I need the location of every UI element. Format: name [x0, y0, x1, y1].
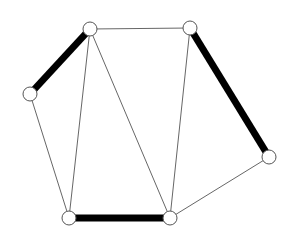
edge-b-f: [170, 28, 190, 218]
edges-layer: [30, 28, 269, 218]
node-a: [83, 22, 97, 36]
edge-a-c-thick: [30, 29, 90, 94]
node-d: [262, 150, 276, 164]
node-f: [163, 211, 177, 225]
edge-a-b: [90, 28, 190, 29]
nodes-layer: [23, 21, 276, 225]
edge-b-d-thick: [190, 28, 269, 157]
graph-diagram: [0, 0, 284, 237]
node-c: [23, 87, 37, 101]
node-b: [183, 21, 197, 35]
edge-a-e: [69, 29, 90, 218]
node-e: [62, 211, 76, 225]
edge-d-f: [170, 157, 269, 218]
edge-c-e: [30, 94, 69, 218]
edge-a-f: [90, 29, 170, 218]
